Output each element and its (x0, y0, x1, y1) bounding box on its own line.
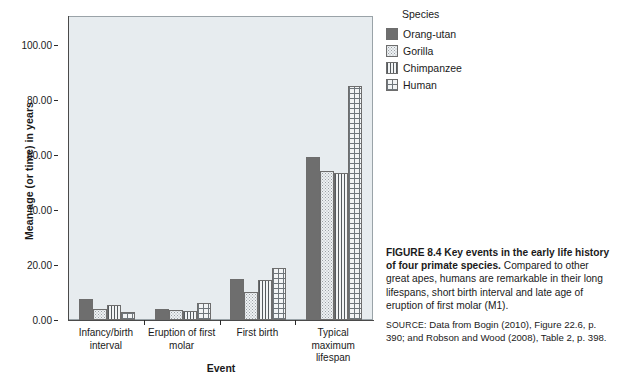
y-axis-tick-label: 20.00 (27, 259, 52, 270)
x-axis-tick-label: Typical maximum lifespan (295, 327, 371, 365)
legend: Species Orang-utanGorillaChimpanzeeHuman (386, 8, 536, 93)
y-axis-tick-labels: 0.0020.0040.0060.0080.00100.00 (6, 0, 58, 388)
legend-swatch-icon (386, 28, 398, 40)
y-axis-tick-label: 100.00 (21, 39, 52, 50)
bar (230, 279, 244, 320)
legend-item: Gorilla (386, 42, 536, 59)
legend-items: Orang-utanGorillaChimpanzeeHuman (386, 25, 536, 93)
legend-item-label: Chimpanzee (403, 62, 462, 74)
x-axis-title: Event (68, 362, 374, 374)
x-axis-tick-mark (220, 320, 221, 325)
bar-group (69, 17, 145, 320)
bar-group (145, 17, 221, 320)
legend-swatch-icon (386, 79, 398, 91)
bar-group (221, 17, 297, 320)
bar (155, 309, 169, 320)
legend-item: Human (386, 76, 536, 93)
bar (244, 292, 258, 320)
legend-swatch-icon (386, 45, 398, 57)
caption-main: FIGURE 8.4 Key events in the early life … (386, 246, 610, 312)
legend-item-label: Orang-utan (403, 28, 456, 40)
y-axis-tick-mark (54, 210, 58, 211)
figure-chart: Mean age (or time) in years 0.0020.0040.… (0, 0, 385, 388)
y-axis-tick-mark (54, 265, 58, 266)
y-axis-tick-label: 0.00 (33, 315, 52, 326)
legend-item-label: Human (403, 79, 437, 91)
y-axis-tick-mark (54, 155, 58, 156)
bar (183, 311, 197, 320)
bar (79, 299, 93, 320)
bar (334, 173, 348, 320)
bar (93, 309, 107, 320)
bar (306, 157, 320, 320)
bars-layer (69, 17, 372, 320)
bar-group (296, 17, 372, 320)
bar (272, 268, 286, 320)
bar (121, 312, 135, 320)
y-axis-tick-label: 80.00 (27, 94, 52, 105)
x-axis-tick-marks (68, 320, 374, 326)
bar (320, 171, 334, 320)
x-axis-tick-labels: Infancy/birth intervalEruption of first … (68, 327, 374, 361)
caption-source: SOURCE: Data from Bogin (2010), Figure 2… (386, 319, 610, 344)
caption-source-label: SOURCE: (386, 320, 427, 330)
legend-item: Orang-utan (386, 25, 536, 42)
bar (197, 303, 211, 320)
x-axis-tick-label: Infancy/birth interval (68, 327, 144, 352)
x-axis-tick-mark (295, 320, 296, 325)
legend-title: Species (402, 8, 536, 20)
bar (169, 310, 183, 320)
y-axis-tick-mark (54, 45, 58, 46)
caption-figure-number: FIGURE 8.4 (386, 247, 441, 258)
legend-item-label: Gorilla (403, 45, 433, 57)
x-axis-tick-label: Eruption of first molar (144, 327, 220, 352)
x-axis-tick-label: First birth (220, 327, 296, 340)
legend-item: Chimpanzee (386, 59, 536, 76)
y-axis-tick-label: 60.00 (27, 149, 52, 160)
y-axis-tick-label: 40.00 (27, 204, 52, 215)
bar (258, 280, 272, 320)
legend-swatch-icon (386, 62, 398, 74)
x-axis-tick-mark (144, 320, 145, 325)
y-axis-tick-mark (54, 320, 58, 321)
y-axis-tick-mark (54, 100, 58, 101)
bar (107, 305, 121, 320)
bar (348, 86, 362, 320)
figure-caption: FIGURE 8.4 Key events in the early life … (386, 246, 610, 344)
